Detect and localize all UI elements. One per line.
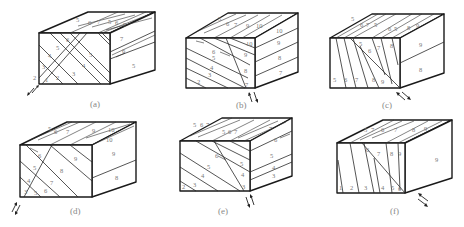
panel-a-label: 5	[76, 16, 79, 23]
panel-d-label: 3	[24, 188, 27, 195]
panel-f-label: 9	[398, 150, 401, 157]
panel-a-label: 3	[42, 63, 45, 70]
panel-f-label: 8	[412, 126, 415, 133]
panel-b-label: 5	[212, 54, 215, 61]
panel-c-label: 8	[407, 24, 410, 31]
panel-c-shear-arrows-icon	[396, 92, 411, 100]
panel-c-label: 5	[374, 21, 377, 28]
panel-b-label: 2	[197, 78, 200, 85]
panel-e-shear-arrows-icon	[246, 194, 254, 208]
panel-e-label: 3	[272, 172, 275, 179]
panel-d-label: 5	[33, 164, 36, 171]
panel-b-label: 9	[244, 51, 247, 58]
panel-d-label: 5	[48, 125, 51, 132]
panel-d-shear-arrows-icon	[12, 202, 20, 215]
panel-a-label: 5	[132, 62, 135, 69]
panel-c-label: 8	[419, 66, 422, 73]
panel-e-label: 5	[193, 121, 196, 128]
panel-b-label: 10	[246, 40, 253, 47]
panel-d-label: 9	[112, 150, 115, 157]
panel-f-label: 2	[350, 184, 353, 191]
panel-c-caption: (c)	[382, 100, 392, 110]
panel-d-label: 9	[92, 127, 95, 134]
panel-e-label: 6	[200, 121, 204, 128]
panel-b-label: 8	[244, 67, 247, 74]
panel-e-caption: (e)	[218, 206, 228, 216]
panel-e-label: 3	[242, 183, 245, 190]
panel-a-label: 2	[56, 74, 59, 81]
panel-d-label: 8	[60, 167, 63, 174]
panel-d-label: 5	[34, 189, 37, 196]
panel-b-label: 3	[208, 71, 211, 78]
panel-b: 2 3 4 5 6 7 8 9 10 5 6 7 9 10 10 9 8 7 (…	[186, 13, 298, 110]
panel-a-label: 5	[89, 51, 92, 58]
panel-d: 3 4 5 5 6 6 7 8 9 5 6 7 9 10 10 9 8 (d)	[12, 122, 136, 216]
panel-e: 2 3 4 5 6 5 4 3 5 6 7 5 6 7 7 6 5 4 3 (e…	[180, 118, 292, 216]
panel-b-label: 8	[278, 54, 281, 61]
panel-e-label: 5	[222, 128, 225, 135]
panel-a-caption: (a)	[90, 99, 100, 109]
panel-f-front-face	[337, 143, 405, 193]
panel-a: 1 2 3 4 5 3 4 5 6 2 5 6 7 5 6 7 7 6 5 (a…	[27, 12, 155, 109]
panel-d-label: 10	[106, 136, 113, 143]
panel-b-shear-arrows-icon	[248, 92, 258, 103]
panel-a-label: 3	[72, 70, 75, 77]
panel-c-label: 9	[419, 41, 422, 48]
panel-a-label: 2	[33, 74, 36, 81]
panel-f: 1 2 3 4 5 6 6 7 8 9 5 7 6 7 8 9 9 (f)	[337, 120, 452, 216]
panel-f-label: 1	[339, 184, 342, 191]
panel-b-label: 10	[276, 27, 283, 34]
panel-c-label: 8	[390, 42, 393, 49]
panel-e-label: 5	[270, 152, 273, 159]
panel-b-label: 9	[277, 39, 280, 46]
panel-b-label: 9	[246, 22, 249, 29]
panel-c-label: 5	[333, 76, 336, 83]
panel-b-label: 10	[256, 22, 263, 29]
panel-f-shear-arrows-icon	[418, 193, 428, 207]
panel-e-label: 5	[207, 163, 210, 170]
panel-a-label: 1	[45, 76, 48, 83]
panel-d-caption: (d)	[70, 206, 81, 216]
panel-f-label: 5	[391, 184, 394, 191]
panel-f-label: 9	[435, 156, 438, 163]
panel-b-caption: (b)	[236, 100, 247, 110]
block-diagram-figure: 1 2 3 4 5 3 4 5 6 2 5 6 7 5 6 7 7 6 5 (a…	[0, 0, 464, 227]
panel-c-label: 5	[351, 15, 354, 22]
panel-f-label: 5	[364, 126, 367, 133]
panel-e-label: 3	[193, 181, 196, 188]
panel-c-label: 9	[416, 22, 419, 29]
panel-b-label: 5	[218, 15, 221, 22]
panel-a-label: 5	[108, 18, 111, 25]
panel-a-shear-arrows-icon	[27, 85, 39, 96]
panel-d-label: 10	[108, 126, 115, 133]
panel-e-label: 5	[240, 160, 243, 167]
panel-c: 5 6 7 8 9 5 6 7 8 5 6 7 5 6 5 8 9 9 8 (c…	[330, 14, 444, 110]
panel-d-label: 8	[115, 174, 118, 181]
panel-e-label: 2	[182, 183, 185, 190]
panel-c-label: 8	[372, 76, 375, 83]
panel-f-label: 9	[424, 125, 427, 132]
panel-c-label: 5	[394, 25, 397, 32]
panel-c-label: 5	[359, 40, 362, 47]
panel-c-label: 9	[381, 78, 384, 85]
panel-a-label: 5	[56, 44, 59, 51]
panel-d-label: 9	[74, 155, 77, 162]
panel-f-caption: (f)	[390, 206, 399, 216]
panel-f-label: 8	[390, 150, 393, 157]
panel-f-label: 3	[364, 184, 367, 191]
